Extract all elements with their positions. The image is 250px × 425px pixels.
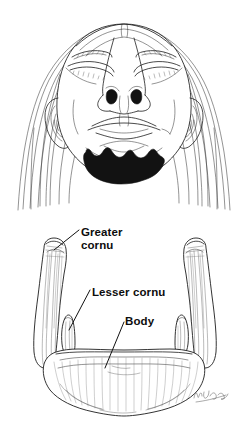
label-layer: Greater cornu Lesser cornu Body <box>0 0 250 425</box>
anatomy-figure: Greater cornu Lesser cornu Body <box>0 0 250 425</box>
label-body: Body <box>125 315 154 328</box>
label-greater-cornu: Greater cornu <box>81 226 123 251</box>
label-lesser-cornu: Lesser cornu <box>92 286 165 299</box>
